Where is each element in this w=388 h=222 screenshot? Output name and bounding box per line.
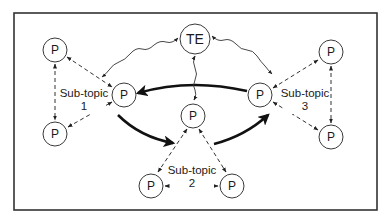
- arrow-subtopic3-to-subtopic1: [138, 85, 247, 93]
- wavy-link-te-subtopic2: [194, 56, 197, 100]
- node-label: P: [256, 88, 264, 102]
- node-label: P: [51, 127, 59, 141]
- subtopic-2-label: Sub-topic 2: [168, 163, 217, 191]
- svg-text:Sub-topic: Sub-topic: [281, 87, 330, 99]
- node-label: P: [327, 45, 335, 59]
- svg-text:Sub-topic: Sub-topic: [60, 87, 109, 99]
- te-label: TE: [186, 31, 204, 47]
- node-p-subtopic2-left: P: [139, 174, 163, 198]
- arrow-subtopic2-to-subtopic3: [214, 115, 268, 144]
- node-p-subtopic2-top: P: [181, 104, 205, 128]
- node-te: TE: [180, 24, 210, 54]
- arrow-subtopic1-to-subtopic2: [118, 115, 173, 143]
- svg-text:2: 2: [189, 177, 195, 189]
- node-p-subtopic1-right: P: [112, 83, 136, 107]
- wavy-link-te-subtopic3: [212, 36, 272, 74]
- svg-text:3: 3: [302, 100, 308, 112]
- node-label: P: [51, 43, 59, 57]
- node-p-subtopic3-bottom: P: [319, 125, 343, 149]
- node-p-subtopic1-top: P: [43, 38, 67, 62]
- svg-text:1: 1: [81, 100, 87, 112]
- diagram-canvas: TE P P P P P P P P P Sub-topic 1: [0, 0, 388, 222]
- node-p-subtopic1-bottom: P: [43, 122, 67, 146]
- node-label: P: [147, 179, 155, 193]
- node-label: P: [228, 179, 236, 193]
- node-label: P: [327, 130, 335, 144]
- node-p-subtopic3-top: P: [319, 40, 343, 64]
- node-label: P: [120, 88, 128, 102]
- node-p-subtopic3-left: P: [248, 83, 272, 107]
- svg-text:Sub-topic: Sub-topic: [168, 164, 217, 176]
- subtopic-3-label: Sub-topic 3: [281, 86, 330, 114]
- subtopic-1-label: Sub-topic 1: [60, 86, 109, 114]
- wavy-link-te-subtopic1: [102, 38, 178, 77]
- node-label: P: [189, 109, 197, 123]
- node-p-subtopic2-right: P: [220, 174, 244, 198]
